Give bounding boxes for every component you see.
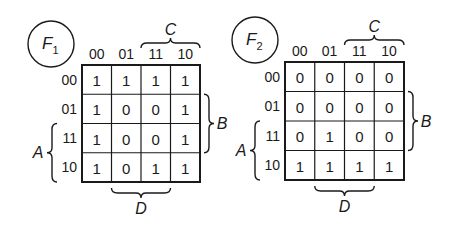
column-header: 01: [118, 46, 134, 62]
kmap-cell: 0: [385, 69, 393, 86]
kmap-cell: 1: [355, 158, 363, 175]
row-header: 00: [264, 69, 280, 85]
column-header: 00: [292, 43, 308, 59]
brace-d: [315, 186, 375, 196]
kmap-cell: 1: [122, 72, 130, 89]
variable-label-b: B: [421, 113, 432, 130]
kmap-cell: 1: [296, 158, 304, 175]
row-header: 00: [61, 72, 77, 88]
column-header: 10: [177, 46, 193, 62]
kmap-cell: 1: [93, 72, 101, 89]
kmap-cell: 1: [325, 128, 333, 145]
function-label: F1: [42, 34, 59, 56]
column-header: 01: [322, 43, 338, 59]
kmap-cell: 0: [385, 128, 393, 145]
kmap-cell: 0: [296, 69, 304, 86]
kmap-cell: 1: [152, 72, 160, 89]
brace-d: [112, 188, 171, 198]
kmap-cell: 0: [296, 99, 304, 116]
kmap-cell: 0: [122, 101, 130, 118]
kmap-cell: 0: [152, 101, 160, 118]
kmap-f2: F200011110000111100000000001001111CBAD: [232, 17, 432, 215]
kmap-cell: 0: [325, 69, 333, 86]
row-header: 11: [62, 130, 77, 146]
kmap-f1: F100011110000111101111100110011011CBAD: [28, 21, 228, 217]
kmap-cell: 0: [355, 128, 363, 145]
variable-label-c: C: [368, 18, 380, 35]
variable-label-d: D: [135, 200, 147, 217]
kmap-cell: 0: [296, 128, 304, 145]
brace-a: [47, 124, 57, 183]
kmap-cell: 0: [325, 99, 333, 116]
row-header: 10: [264, 157, 280, 173]
function-subscript: 1: [52, 44, 58, 56]
column-header: 11: [148, 46, 163, 62]
variable-label-a: A: [235, 142, 247, 159]
kmap-cell: 1: [325, 158, 333, 175]
kmap-cell: 1: [152, 160, 160, 177]
row-header: 01: [264, 98, 280, 114]
kmap-cell: 1: [385, 158, 393, 175]
row-header: 01: [61, 101, 77, 117]
column-header: 11: [352, 43, 367, 59]
brace-b: [204, 94, 214, 153]
kmap-cell: 0: [122, 131, 130, 148]
column-header: 10: [381, 43, 397, 59]
brace-b: [408, 92, 418, 151]
function-label: F2: [246, 30, 263, 52]
row-header: 11: [265, 128, 280, 144]
variable-label-c: C: [165, 21, 177, 38]
kmap-cell: 1: [93, 101, 101, 118]
column-header: 00: [89, 46, 105, 62]
karnaugh-maps-diagram: F100011110000111101111100110011011CBADF2…: [0, 0, 454, 232]
kmap-cell: 1: [93, 131, 101, 148]
function-subscript: 2: [256, 40, 262, 52]
kmap-cell: 0: [152, 131, 160, 148]
row-header: 10: [61, 159, 77, 175]
kmap-cell: 1: [93, 160, 101, 177]
kmap-cell: 1: [181, 131, 189, 148]
kmap-cell: 0: [355, 69, 363, 86]
kmap-cell: 1: [181, 101, 189, 118]
brace-a: [250, 121, 260, 180]
variable-label-b: B: [217, 115, 228, 132]
kmap-cell: 1: [181, 160, 189, 177]
kmap-cell: 0: [385, 99, 393, 116]
variable-label-d: D: [339, 198, 351, 215]
variable-label-a: A: [32, 144, 44, 161]
kmap-cell: 1: [181, 72, 189, 89]
kmap-cell: 0: [122, 160, 130, 177]
kmap-cell: 0: [355, 99, 363, 116]
